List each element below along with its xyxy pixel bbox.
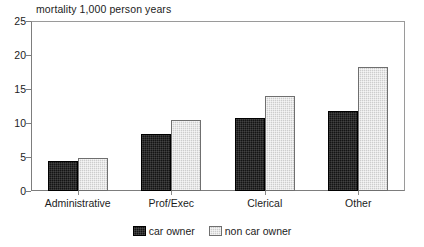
x-axis-label: Prof/Exec: [148, 197, 194, 210]
x-axis-label: Administrative: [45, 197, 111, 210]
bars-layer: [31, 21, 405, 191]
y-tick-label: 20: [0, 50, 26, 60]
x-axis-labels: AdministrativeProf/ExecClericalOther: [31, 197, 405, 213]
legend-swatch-icon: [133, 226, 146, 236]
x-tick-mark: [171, 191, 172, 195]
x-tick-mark: [358, 191, 359, 195]
bar-clerical-car-owner: [235, 118, 265, 191]
chart-title: mortality 1,000 person years: [36, 3, 171, 16]
bar-prof-exec-non-car-owner: [171, 120, 201, 191]
bar-administrative-non-car-owner: [78, 158, 108, 191]
legend-item: non car owner: [209, 225, 292, 237]
legend-item: car owner: [133, 225, 195, 237]
legend-label: car owner: [149, 225, 195, 237]
x-tick-mark: [265, 191, 266, 195]
bar-other-non-car-owner: [358, 67, 388, 191]
bar-chart: mortality 1,000 person years 0510152025 …: [0, 0, 424, 247]
bar-clerical-non-car-owner: [265, 96, 295, 191]
y-tick-label: 10: [0, 118, 26, 128]
x-axis-label: Other: [345, 197, 371, 210]
x-tick-mark: [78, 191, 79, 195]
bar-prof-exec-car-owner: [141, 134, 171, 191]
y-tick-mark: [26, 191, 31, 192]
y-axis: 0510152025: [0, 21, 26, 191]
y-tick-label: 25: [0, 16, 26, 26]
x-axis-label: Clerical: [247, 197, 282, 210]
legend-label: non car owner: [225, 225, 292, 237]
y-tick-label: 0: [0, 186, 26, 196]
bar-administrative-car-owner: [48, 161, 78, 191]
y-tick-label: 5: [0, 152, 26, 162]
legend-swatch-icon: [209, 226, 222, 236]
chart-legend: car ownernon car owner: [0, 225, 424, 237]
y-tick-label: 15: [0, 84, 26, 94]
bar-other-car-owner: [328, 111, 358, 191]
